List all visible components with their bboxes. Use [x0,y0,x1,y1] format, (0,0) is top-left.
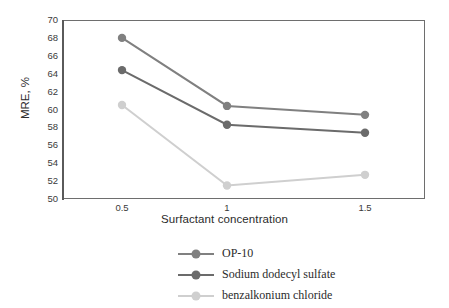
y-tick-label: 52 [12,176,58,186]
legend-marker-icon [176,269,216,281]
legend-item: OP-10 [176,243,416,264]
chart-legend: OP-10Sodium dodecyl sulfatebenzalkonium … [176,243,416,306]
y-tick-label: 54 [12,158,58,168]
x-tick-label: 1.5 [358,202,371,213]
y-axis-line [62,20,64,200]
y-tick-label: 68 [12,33,58,43]
y-axis-title: MRE, % [19,58,31,138]
y-tick-label: 50 [12,194,58,204]
legend-marker-icon [176,248,216,260]
legend-label: benzalkonium chloride [222,288,332,303]
y-axis-tick-labels: 7068666462605856545250 [6,0,58,308]
x-axis-title: Surfactant concentration [0,213,449,225]
plot-area-frame [62,20,425,199]
legend-label: Sodium dodecyl sulfate [222,267,335,282]
chart-figure: 7068666462605856545250 0.511.5 Surfactan… [0,0,449,308]
legend-item: Sodium dodecyl sulfate [176,264,416,285]
x-tick-label: 0.5 [115,202,128,213]
legend-label: OP-10 [222,246,253,261]
x-tick-label: 1 [224,202,229,213]
y-tick-label: 56 [12,141,58,151]
legend-marker-icon [176,290,216,302]
y-tick-label: 70 [12,15,58,25]
legend-item: benzalkonium chloride [176,285,416,306]
